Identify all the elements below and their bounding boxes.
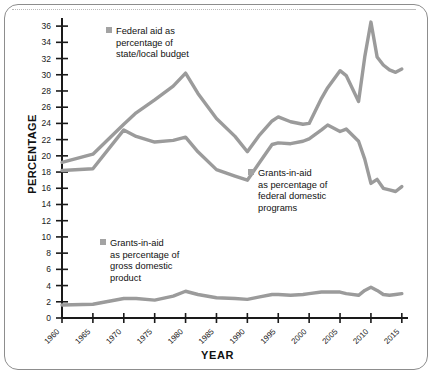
legend-federal-aid: Federal aid aspercentage ofstate/local b…	[106, 26, 189, 61]
y-tick-label: 16	[42, 183, 52, 193]
legend-domestic-line2: as percentage of	[258, 180, 327, 190]
series-line-3	[62, 287, 402, 305]
x-tick-label: 2000	[290, 327, 309, 346]
legend-federal-line2: percentage of	[116, 38, 173, 48]
chart-page: 024681012141618202224262830323436 196019…	[0, 0, 435, 382]
legend-gdp-line4: product	[110, 273, 141, 283]
y-tick-label: 26	[42, 102, 52, 112]
y-tick-label: 34	[42, 37, 52, 47]
legend-federal-line3: state/local budget	[116, 49, 189, 59]
legend-gdp-line3: gross domestic	[110, 261, 173, 271]
legend-gross-domestic-product: Grants-in-aidas percentage ofgross domes…	[100, 238, 179, 284]
legend-domestic-line3: federal domestic	[258, 191, 326, 201]
legend-gdp-line1: Grants-in-aid	[110, 238, 164, 248]
y-tick-label: 10	[42, 232, 52, 242]
y-tick-label: 24	[42, 118, 52, 128]
y-tick-label: 12	[42, 216, 52, 226]
x-tick-label: 1990	[228, 327, 247, 346]
x-tick-label: 2005	[321, 327, 340, 346]
y-tick-label: 18	[42, 167, 52, 177]
y-tick-label: 32	[42, 54, 52, 64]
y-tick-label: 8	[46, 248, 51, 258]
x-tick-label: 2010	[351, 327, 370, 346]
x-tick-label: 1975	[135, 327, 154, 346]
y-tick-label: 0	[46, 313, 51, 323]
chart-svg: 024681012141618202224262830323436 196019…	[0, 0, 435, 382]
legend-domestic-line4: programs	[258, 203, 297, 213]
x-tick-label: 1980	[166, 327, 185, 346]
y-axis-ticks: 024681012141618202224262830323436	[42, 21, 68, 323]
legend-domestic-line1: Grants-in-aid	[258, 168, 312, 178]
y-tick-label: 20	[42, 151, 52, 161]
x-axis-title: YEAR	[0, 349, 435, 361]
y-tick-label: 4	[46, 281, 51, 291]
legend-federal-line1: Federal aid as	[116, 26, 175, 36]
x-tick-label: 1995	[259, 327, 278, 346]
y-tick-label: 6	[46, 264, 51, 274]
y-tick-label: 14	[42, 199, 52, 209]
x-tick-label: 2015	[382, 327, 401, 346]
x-tick-label: 1970	[104, 327, 123, 346]
y-tick-label: 22	[42, 135, 52, 145]
y-tick-label: 30	[42, 70, 52, 80]
legend-gdp-line2: as percentage of	[110, 250, 179, 260]
x-tick-label: 1985	[197, 327, 216, 346]
legend-federal-domestic-programs: Grants-in-aidas percentage offederal dom…	[248, 168, 327, 214]
y-axis-title: PERCENTAGE	[26, 94, 38, 214]
x-tick-label: 1960	[42, 327, 61, 346]
y-tick-label: 2	[46, 297, 51, 307]
x-tick-label: 1965	[73, 327, 92, 346]
y-tick-label: 36	[42, 21, 52, 31]
legend-swatch-icon	[106, 27, 112, 33]
y-tick-label: 28	[42, 86, 52, 96]
line-chart: 024681012141618202224262830323436 196019…	[0, 0, 435, 382]
legend-swatch-icon	[100, 239, 106, 245]
legend-swatch-icon	[248, 169, 254, 175]
